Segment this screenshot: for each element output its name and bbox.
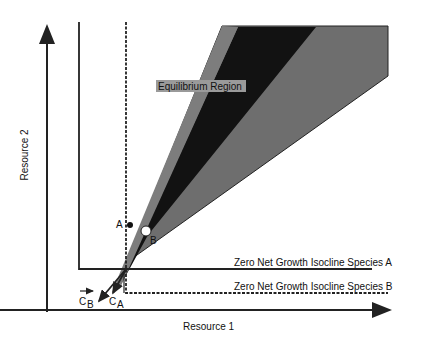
- consumption-a-label: C: [109, 296, 116, 307]
- point-a-marker: [127, 222, 133, 228]
- y-axis-label: Resource 2: [19, 129, 30, 181]
- consumption-a-sub: A: [117, 299, 124, 310]
- consumption-b-label: C: [79, 296, 86, 307]
- consumption-b-sub: B: [87, 299, 94, 310]
- region-label: Equilibrium Region: [158, 81, 242, 92]
- point-a-label: A: [116, 219, 123, 230]
- isocline-b-label: Zero Net Growth Isocline Species B: [234, 281, 393, 292]
- resource-competition-diagram: Equilibrium Region A B C B C A Zero Net …: [0, 0, 422, 340]
- isocline-a-label: Zero Net Growth Isocline Species A: [234, 257, 392, 268]
- x-axis-label: Resource 1: [183, 321, 235, 332]
- point-b-label: B: [150, 235, 157, 246]
